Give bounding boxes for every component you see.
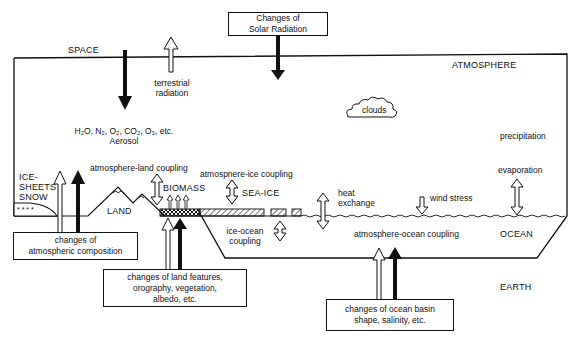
double-arrows — [151, 174, 523, 241]
sea-ice-blocks — [200, 209, 301, 216]
label-atmosphere-land-coupling: atmosphere-land coupling — [90, 163, 188, 173]
label-terrestrial-radiation: terrestrial radiation — [152, 78, 192, 98]
ice-sheets-line1: ICE- — [19, 172, 56, 182]
heat-line1: heat — [338, 188, 375, 198]
label-precipitation: precipitation — [500, 131, 546, 141]
heat-line2: exchange — [338, 198, 375, 208]
ice-sheets-line2: SHEETS — [19, 182, 56, 192]
land-features-box: changes of land features, orography, veg… — [103, 269, 247, 307]
system-outline — [14, 54, 567, 258]
gases-line1: H₂O, N₂, O₂, CO₂, O₃, etc. — [64, 126, 184, 136]
label-ocean: OCEAN — [500, 229, 533, 239]
label-atmosphere: ATMOSPHERE — [452, 60, 516, 70]
label-atmosphere-ocean-coupling: atmosphere-ocean coupling — [354, 229, 459, 239]
label-clouds: clouds — [362, 105, 387, 115]
solar-radiation-box: Changes of Solar Radiation — [228, 12, 328, 36]
label-space: SPACE — [68, 45, 99, 55]
solar-line1: Changes of — [229, 13, 327, 24]
ice-ocean-line2: coupling — [222, 236, 268, 246]
land-line1: changes of land features, — [104, 272, 246, 283]
label-land: LAND — [107, 206, 132, 216]
atmos-comp-line2: atmospheric composition — [14, 246, 137, 257]
biomass-arrows — [167, 195, 189, 209]
solar-line2: Solar Radiation — [229, 24, 327, 35]
biomass-block — [160, 209, 200, 216]
ocean-basin-box: changes of ocean basin shape, salinity, … — [326, 299, 454, 331]
svg-text:* * * *: * * * * — [17, 206, 34, 213]
atmos-comp-line1: changes of — [14, 235, 137, 246]
atmospheric-composition-box: changes of atmospheric composition — [13, 232, 138, 260]
terrestrial-line2: radiation — [152, 88, 192, 98]
gases-line2: Aerosol — [64, 136, 184, 146]
ice-sheets-line3: SNOW — [19, 192, 56, 202]
label-evaporation: evaporation — [498, 165, 542, 175]
ocean-line1: changes of ocean basin — [327, 304, 453, 315]
label-wind-stress: wind stress — [430, 193, 473, 203]
label-ice-sheets: ICE- SHEETS SNOW — [19, 172, 56, 202]
label-atmospheric-gases: H₂O, N₂, O₂, CO₂, O₃, etc. Aerosol — [64, 126, 184, 146]
label-sea-ice: SEA-ICE — [242, 188, 279, 198]
label-atmosphere-ice-coupling: atmospnere-ice coupling — [200, 169, 293, 179]
land-line3: albedo, etc. — [104, 294, 246, 305]
ice-ocean-line1: ice-ocean — [222, 226, 268, 236]
terrestrial-line1: terrestrial — [152, 78, 192, 88]
label-ice-ocean-coupling: ice-ocean coupling — [222, 226, 268, 246]
ocean-surface — [301, 215, 565, 217]
ice-sheet: * * * * — [14, 203, 57, 216]
ocean-line2: shape, salinity, etc. — [327, 315, 453, 326]
land-line2: orography, vegetation, — [104, 283, 246, 294]
label-earth: EARTH — [500, 282, 531, 292]
label-heat-exchange: heat exchange — [338, 188, 375, 208]
label-biomass: BIOMASS — [163, 183, 205, 193]
